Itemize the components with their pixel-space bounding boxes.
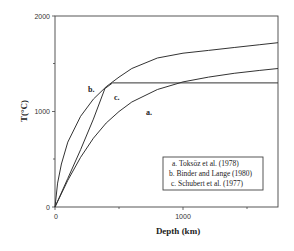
x-axis-title: Depth (km) xyxy=(156,226,200,236)
temperature-depth-chart: 2000 1000 0 0 1000 Depth (km) T(°C) b. c… xyxy=(0,0,294,251)
y-tick-label-1000: 1000 xyxy=(34,108,50,115)
legend-item-a: a. Toksöz et al. (1978) xyxy=(172,159,239,168)
curve-label-b: b. xyxy=(88,85,94,94)
y-tick-label-2000: 2000 xyxy=(34,13,50,20)
curve-label-c: c. xyxy=(114,93,120,102)
legend: a. Toksöz et al. (1978) b. Binder and La… xyxy=(163,157,263,190)
x-tick-label-0: 0 xyxy=(54,213,58,220)
y-axis-title: T(°C) xyxy=(19,100,29,122)
legend-item-c: c. Schubert et al. (1977) xyxy=(171,179,244,188)
y-tick-label-0: 0 xyxy=(46,204,50,211)
x-tick-label-1000: 1000 xyxy=(175,213,191,220)
legend-item-b: b. Binder and Lange (1980) xyxy=(169,169,253,178)
curve-label-a: a. xyxy=(146,108,152,117)
